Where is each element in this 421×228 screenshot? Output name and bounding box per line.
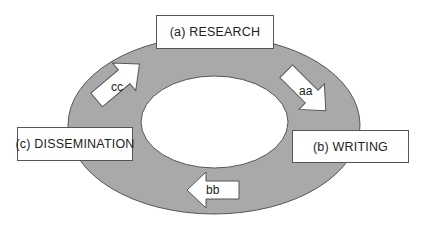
cycle-diagram: aa bb cc (a) RESEARCH (b) WRITING (c) DI… [0, 0, 421, 228]
arrow-bb-label: bb [206, 183, 220, 197]
node-dissemination: (c) DISSEMINATION [17, 127, 133, 161]
inner-hole [141, 76, 288, 168]
node-research: (a) RESEARCH [156, 15, 274, 49]
arrow-cc-label: cc [111, 80, 123, 94]
node-writing: (b) WRITING [292, 130, 409, 163]
arrow-aa-label: aa [299, 84, 313, 98]
